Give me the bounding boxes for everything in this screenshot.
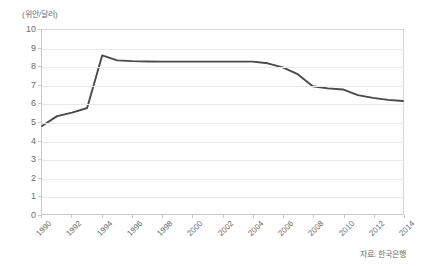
y-axis-tick-label: 3 xyxy=(4,154,36,164)
x-axis-tick-label: 2006 xyxy=(271,219,296,244)
y-axis-tick-label: 4 xyxy=(4,136,36,146)
x-axis-tick-label: 2012 xyxy=(361,219,386,244)
y-axis-tick-label: 2 xyxy=(4,173,36,183)
source-note: 자료: 한국은행 xyxy=(360,248,406,259)
x-axis-tick-label: 2014 xyxy=(392,219,417,244)
y-axis-tick-mark xyxy=(38,122,41,123)
gridline xyxy=(42,67,403,68)
x-axis-tick-mark xyxy=(253,215,254,218)
x-axis-tick-label: 1998 xyxy=(150,219,175,244)
y-axis-tick-label: 1 xyxy=(4,191,36,201)
x-axis-tick-mark xyxy=(71,215,72,218)
x-axis-tick-mark xyxy=(132,215,133,218)
x-axis-tick-label: 1996 xyxy=(119,219,144,244)
x-axis-tick-mark xyxy=(404,215,405,218)
gridline xyxy=(42,160,403,161)
gridline xyxy=(42,197,403,198)
y-axis-tick-label: 8 xyxy=(4,61,36,71)
y-axis-tick-mark xyxy=(38,159,41,160)
x-axis-tick-label: 2004 xyxy=(240,219,265,244)
x-axis-tick-mark xyxy=(223,215,224,218)
x-axis-tick-label: 1994 xyxy=(89,219,114,244)
y-axis-tick-label: 9 xyxy=(4,43,36,53)
gridline xyxy=(42,104,403,105)
y-axis-tick-label: 0 xyxy=(4,210,36,220)
plot-area xyxy=(41,29,404,215)
x-axis-tick-mark xyxy=(283,215,284,218)
x-axis-tick-label: 1990 xyxy=(29,219,54,244)
x-axis-tick-label: 1992 xyxy=(59,219,84,244)
x-axis-tick-mark xyxy=(344,215,345,218)
gridline xyxy=(42,142,403,143)
y-axis-unit-label: (위안/달러) xyxy=(22,8,58,19)
gridline xyxy=(42,179,403,180)
x-axis-tick-mark xyxy=(41,215,42,218)
data-line xyxy=(42,55,403,126)
y-axis-tick-mark xyxy=(38,178,41,179)
x-axis-tick-label: 2000 xyxy=(180,219,205,244)
x-axis-tick-mark xyxy=(374,215,375,218)
x-axis-tick-label: 2002 xyxy=(210,219,235,244)
y-axis-tick-label: 5 xyxy=(4,117,36,127)
gridline xyxy=(42,86,403,87)
y-axis-tick-mark xyxy=(38,85,41,86)
x-axis-tick-mark xyxy=(313,215,314,218)
gridline xyxy=(42,123,403,124)
x-axis-tick-label: 2008 xyxy=(301,219,326,244)
y-axis-tick-label: 10 xyxy=(4,24,36,34)
x-axis-tick-mark xyxy=(102,215,103,218)
chart-container: (위안/달러) 012345678910 1990199219941996199… xyxy=(0,0,424,266)
y-axis-tick-mark xyxy=(38,48,41,49)
x-axis-tick-mark xyxy=(192,215,193,218)
y-axis-tick-mark xyxy=(38,66,41,67)
line-series-path xyxy=(42,30,403,214)
y-axis-tick-label: 7 xyxy=(4,80,36,90)
y-axis-tick-mark xyxy=(38,196,41,197)
y-axis-tick-mark xyxy=(38,29,41,30)
gridline xyxy=(42,49,403,50)
y-axis-tick-mark xyxy=(38,141,41,142)
y-axis-tick-label: 6 xyxy=(4,98,36,108)
x-axis-tick-label: 2010 xyxy=(331,219,356,244)
y-axis-tick-mark xyxy=(38,103,41,104)
x-axis-tick-mark xyxy=(162,215,163,218)
